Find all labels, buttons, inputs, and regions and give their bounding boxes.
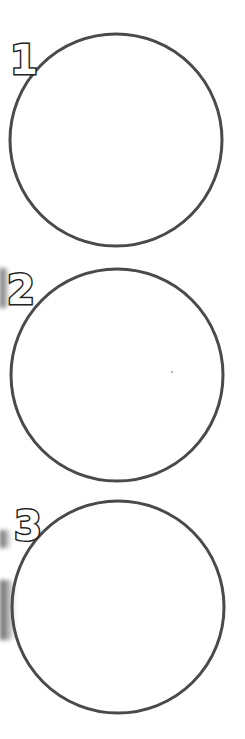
dot-mark [171, 371, 173, 373]
circle-3 [12, 501, 224, 713]
circle-number-1: 1 [10, 40, 38, 80]
numbered-circles-illustration: 1 2 3 [0, 0, 245, 739]
circles-canvas [0, 0, 245, 739]
circle-1 [10, 34, 222, 246]
circle-number-2: 2 [7, 270, 35, 310]
circle-number-3: 3 [14, 506, 42, 546]
circle-2 [11, 269, 223, 481]
